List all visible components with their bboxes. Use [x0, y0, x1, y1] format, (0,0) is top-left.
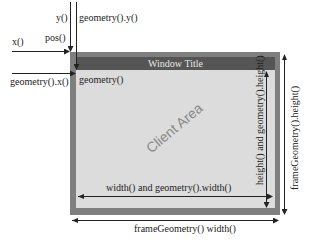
- geometry-x-label: geometry().x(): [10, 77, 69, 87]
- pos-label: pos(): [45, 33, 66, 43]
- geometry-y-label: geometry().y(): [79, 13, 138, 23]
- client-height-label: height() and geometry().height(): [254, 55, 265, 185]
- frame-height-label: frameGeometry().height(): [289, 86, 300, 190]
- frame-width-label: frameGeometry() width(): [134, 224, 236, 234]
- geometry-label: geometry(): [79, 75, 123, 85]
- x-label: x(): [12, 37, 24, 47]
- client-width-label: width() and geometry().width(): [106, 183, 231, 193]
- y-label: y(): [56, 13, 68, 23]
